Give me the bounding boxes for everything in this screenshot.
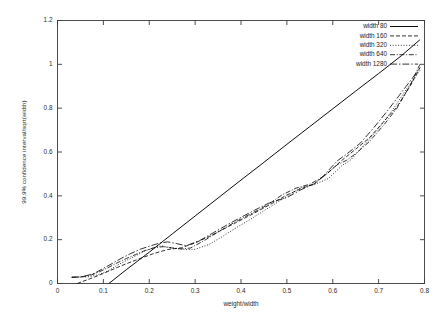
x-tick-label: 0.7 [364,287,394,294]
x-tick-label: 0.2 [134,287,164,294]
y-tick-label: 1 [24,60,53,67]
x-tick-label: 0.8 [410,287,440,294]
x-tick-label: 0.1 [88,287,118,294]
x-tick-label: 0.6 [318,287,348,294]
legend-label-width-80: width 80 [363,22,387,29]
y-tick-label: 0.4 [24,192,53,199]
y-tick-label: 0.6 [24,148,53,155]
legend-label-width-1280: width 1280 [356,60,387,67]
y-axis-title: 99.9% confidence interval/sqrt(width) [20,100,27,203]
chart-background [0,0,447,326]
x-tick-label: 0.5 [272,287,302,294]
chart-canvas [0,0,447,326]
y-tick-label: 0 [24,279,53,286]
x-tick-label: 0.3 [180,287,210,294]
x-tick-label: 0 [43,287,73,294]
legend-label-width-640: width 640 [360,50,387,57]
x-axis-title: weight/width [58,300,425,307]
y-tick-label: 0.8 [24,104,53,111]
legend-label-width-160: width 160 [360,32,387,39]
chart-figure: width 80width 160width 320width 640width… [0,0,447,326]
x-tick-label: 0.4 [226,287,256,294]
legend-label-width-320: width 320 [360,41,387,48]
y-tick-label: 0.2 [24,235,53,242]
y-tick-label: 1.2 [24,16,53,23]
